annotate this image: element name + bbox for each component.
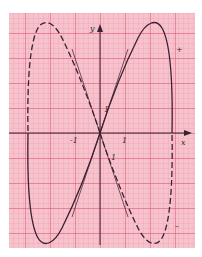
x-tick-neg-label: -1 xyxy=(70,136,78,145)
x-tick-pos-label: 1 xyxy=(122,136,127,145)
graph-paper-figure: y x -1 1 1 1 + – xyxy=(0,0,202,257)
y-tick-neg-label: 1 xyxy=(111,153,116,162)
plus-annotation: + xyxy=(176,45,183,54)
y-axis-label: y xyxy=(89,24,95,33)
y-tick-pos-label: 1 xyxy=(104,105,109,114)
x-axis-label: x xyxy=(181,138,186,147)
minus-annotation: – xyxy=(175,221,179,230)
